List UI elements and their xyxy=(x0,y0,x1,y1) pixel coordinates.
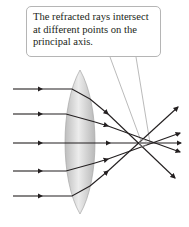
converging-lens xyxy=(65,70,95,214)
refracted-ray-4-a xyxy=(95,159,108,163)
refracted-ray-4-b xyxy=(108,133,180,159)
pointer-line-2 xyxy=(136,57,150,143)
callout-pointers xyxy=(110,57,150,143)
refracted-ray-5-b xyxy=(108,107,178,171)
refracted-ray-2-a xyxy=(95,122,108,126)
rays xyxy=(13,89,181,196)
callout-text: The refracted rays intersect at differen… xyxy=(33,11,149,47)
callout-box: The refracted rays intersect at differen… xyxy=(26,6,161,57)
